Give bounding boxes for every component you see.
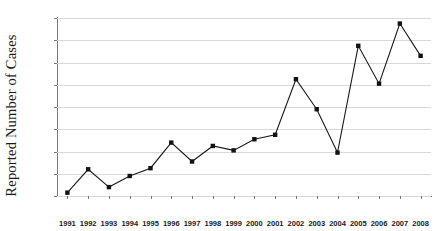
data-point-2008 — [418, 54, 422, 58]
x-tick-mark-2003 — [317, 196, 318, 199]
x-tick-mark-1996 — [171, 196, 172, 199]
y-tick-mark-0 — [54, 196, 57, 197]
x-tick-mark-2008 — [421, 196, 422, 199]
x-tick-mark-1991 — [67, 196, 68, 199]
data-point-1997 — [190, 159, 194, 163]
data-point-1998 — [211, 144, 215, 148]
data-point-1994 — [128, 174, 132, 178]
x-tick-mark-1998 — [213, 196, 214, 199]
data-point-1993 — [107, 185, 111, 189]
data-series-line — [57, 18, 431, 196]
data-point-1999 — [231, 148, 235, 152]
x-tick-mark-1992 — [88, 196, 89, 199]
data-point-2001 — [273, 133, 277, 137]
data-point-2000 — [252, 137, 256, 141]
plot-area: 020406080100120140160 199119921993199419… — [57, 18, 431, 196]
x-tick-mark-2006 — [379, 196, 380, 199]
data-point-1991 — [65, 190, 69, 194]
data-point-1992 — [86, 167, 90, 171]
data-point-2005 — [356, 44, 360, 48]
x-tick-mark-2007 — [400, 196, 401, 199]
x-tick-mark-1994 — [130, 196, 131, 199]
x-tick-mark-2000 — [254, 196, 255, 199]
gridline-0 — [57, 196, 431, 197]
x-tick-mark-2005 — [358, 196, 359, 199]
x-tick-mark-1993 — [109, 196, 110, 199]
data-point-2004 — [335, 150, 339, 154]
x-tick-mark-2001 — [275, 196, 276, 199]
x-tick-mark-1999 — [234, 196, 235, 199]
data-point-1995 — [148, 166, 152, 170]
data-point-1996 — [169, 140, 173, 144]
x-tick-mark-1995 — [151, 196, 152, 199]
line-chart-figure: Reported Number of Cases 020406080100120… — [0, 0, 441, 231]
x-tick-label-2008: 2008 — [404, 220, 438, 228]
y-axis-title: Reported Number of Cases — [0, 0, 22, 231]
x-tick-mark-2004 — [338, 196, 339, 199]
data-point-2007 — [398, 21, 402, 25]
data-point-2003 — [315, 107, 319, 111]
data-point-2002 — [294, 77, 298, 81]
series-polyline — [67, 24, 420, 193]
x-tick-mark-1997 — [192, 196, 193, 199]
x-tick-mark-2002 — [296, 196, 297, 199]
data-point-2006 — [377, 81, 381, 85]
